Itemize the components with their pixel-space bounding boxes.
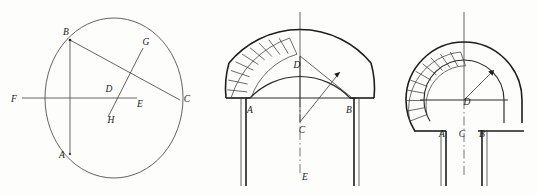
label-figure3-C: C [459,129,466,139]
label-figure1-B: B [63,27,69,37]
label-figure2-A: A [246,105,253,115]
label-figure2-D: D [293,60,301,70]
extrados-horseshoe-left-tail [406,100,415,131]
label-figure1-E: E [136,99,143,109]
label-figure2-E: E [301,172,308,182]
point-A-marker [69,153,71,155]
extrados-arc-right-tail [371,63,375,98]
label-figure1-A: A [58,150,65,160]
voussoir-joints-left [227,38,297,98]
label-figure3-A: A [438,129,445,139]
label-figure1-H: H [107,115,116,125]
figure-3-horseshoe-arch: A B C D [406,12,524,186]
chord-BC [70,40,180,100]
radius-line-from-D [464,70,494,100]
label-figure1-D: D [105,84,113,94]
label-figure1-C: C [184,94,191,104]
geometry-diagram-canvas: A B C D E F G H [0,0,537,195]
label-figure3-B: B [479,129,485,139]
voussoir-band-inner-edge-fig3 [426,66,466,115]
voussoir-joints-left-fig3 [406,52,466,121]
label-figure3-D: D [463,97,471,107]
label-figure2-B: B [346,105,352,115]
label-figure1-G: G [143,37,150,47]
intrados-horseshoe-left-tail [424,100,430,121]
label-figure1-F: F [10,94,17,104]
diagram-page: A B C D E F G H [0,0,537,195]
extrados-arc-left-tail [225,63,229,98]
figure-2-segmental-arch: A B C D E [225,12,374,186]
radius-arrowhead [334,72,340,78]
label-figure2-C: C [299,125,306,135]
point-B-marker [69,39,72,42]
figure-1-circle-chord-construction: A B C D E F G H [10,18,191,178]
